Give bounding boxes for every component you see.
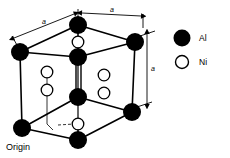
- crystal-structure-figure: a a a Origin Al Ni: [0, 0, 230, 158]
- al-atom-corner-front-bottom: [69, 131, 87, 149]
- legend: Al Ni: [174, 30, 208, 69]
- edge-vertical-right: [132, 42, 135, 112]
- legend-al-label: Al: [199, 33, 207, 43]
- dim-label-right-vertical: a: [151, 65, 155, 72]
- al-atom-corner-front-left: [13, 119, 31, 137]
- ni-atom-bottom-center: [72, 118, 84, 130]
- al-atom-center-upper: [69, 48, 87, 66]
- dim-arrow-top-right: [82, 13, 141, 16]
- ext-tick-rightlower: [137, 102, 152, 107]
- unit-cell-diagram: a a a Origin Al Ni: [0, 0, 230, 158]
- al-atom-corner-front-right: [123, 103, 141, 121]
- ni-atom-right-lower: [98, 87, 110, 99]
- ni-atom-right-upper: [98, 69, 110, 81]
- ni-atom-left-upper: [41, 66, 53, 78]
- origin-label: Origin: [6, 142, 30, 152]
- edge-botface-front-right: [78, 112, 132, 140]
- ni-atom-top-center: [72, 36, 84, 48]
- al-atom-center-lower: [69, 88, 87, 106]
- ni-atom-left-lower: [41, 84, 53, 96]
- legend-ni-open-circle-icon: [176, 56, 189, 69]
- legend-al-filled-circle-icon: [174, 30, 191, 47]
- dim-label-top-right: a: [110, 6, 114, 13]
- edge-topface-left-back: [20, 25, 78, 52]
- dim-label-top-left: a: [42, 18, 46, 25]
- ni-pointer-left-tick: [47, 124, 53, 130]
- ext-tick-rightupper: [140, 31, 155, 36]
- legend-ni-label: Ni: [199, 57, 207, 67]
- edge-botface-back-left: [22, 97, 78, 128]
- edge-vertical-left: [20, 52, 22, 128]
- al-atom-corner-back-left: [11, 43, 29, 61]
